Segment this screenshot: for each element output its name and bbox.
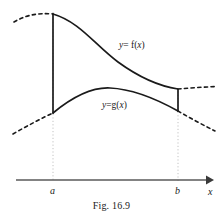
upper-curve-label-eq: = <box>123 40 128 50</box>
upper-curve-label: y= f(x) <box>119 41 145 51</box>
lower-curve-right-extension <box>178 111 215 131</box>
figure-container: y= f(x) y=g(x) a b x Fig. 16.9 <box>0 0 223 219</box>
lower-curve-left-extension <box>13 113 53 134</box>
x-axis-tick-label-b: b <box>175 186 180 196</box>
upper-curve-left-extension <box>14 14 53 22</box>
x-axis-arrow-icon <box>206 176 214 185</box>
lower-curve-label-close-paren: ) <box>124 100 127 110</box>
figure-caption: Fig. 16.9 <box>0 200 223 211</box>
x-axis-tick-label-a: a <box>50 186 55 196</box>
upper-curve-right-extension <box>178 87 217 90</box>
lower-curve-label: y=g(x) <box>102 101 127 111</box>
x-axis-label: x <box>208 187 212 197</box>
upper-curve-fx <box>53 14 178 89</box>
upper-curve-label-close-paren: ) <box>142 40 145 50</box>
